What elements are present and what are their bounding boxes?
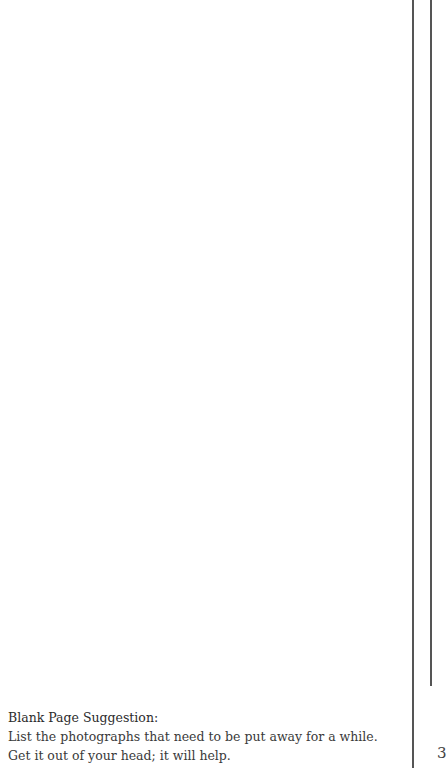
suggestion-title: Blank Page Suggestion: (8, 708, 398, 727)
margin-rule-right (430, 0, 432, 686)
suggestion-text: List the photographs that need to be put… (8, 727, 398, 765)
page-number: 3 (437, 744, 447, 762)
blank-page-suggestion: Blank Page Suggestion: List the photogra… (8, 708, 398, 765)
margin-rule-left (412, 0, 414, 768)
